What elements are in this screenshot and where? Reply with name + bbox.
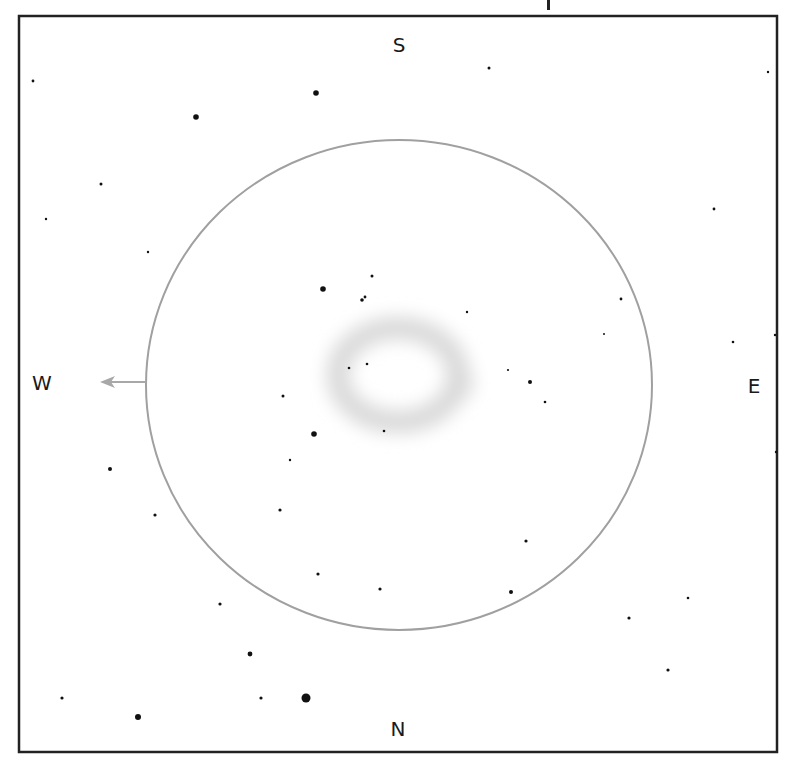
star [153, 513, 156, 516]
star [620, 298, 623, 301]
star [259, 696, 262, 699]
cardinal-north-label: N [391, 719, 406, 739]
star [282, 395, 285, 398]
field-of-view-circle [146, 140, 652, 630]
star [509, 590, 513, 594]
star [383, 430, 386, 433]
star [135, 714, 141, 720]
star [316, 572, 319, 575]
star [364, 296, 367, 299]
star [371, 275, 374, 278]
star [666, 668, 669, 671]
star [32, 80, 35, 83]
star [360, 298, 364, 302]
star [507, 369, 509, 371]
star [687, 597, 690, 600]
cardinal-east-label: E [748, 376, 761, 396]
star [193, 114, 199, 120]
star [627, 616, 630, 619]
star [544, 401, 547, 404]
eyepiece-sketch: S N W E [0, 0, 786, 761]
star [108, 467, 112, 471]
star [278, 508, 281, 511]
star [248, 652, 253, 657]
star [289, 459, 291, 461]
star [767, 71, 769, 73]
star [100, 183, 103, 186]
ring-nebula [338, 328, 474, 422]
star [713, 208, 716, 211]
star [60, 696, 63, 699]
sketch-frame [19, 16, 777, 752]
star [378, 587, 381, 590]
star [311, 431, 317, 437]
star [774, 334, 776, 336]
star [775, 451, 777, 453]
title-fragment [547, 0, 554, 10]
star [147, 251, 149, 253]
star-field [32, 67, 778, 721]
star [313, 90, 319, 96]
star [320, 286, 326, 292]
star [603, 333, 605, 335]
cardinal-west-label: W [32, 373, 52, 393]
cardinal-south-label: S [393, 35, 406, 55]
star [218, 602, 221, 605]
star [524, 539, 527, 542]
star [732, 341, 735, 344]
star [528, 380, 532, 384]
star [45, 218, 47, 220]
sketch-canvas [0, 0, 786, 761]
star [348, 367, 351, 370]
direction-arrow-icon [100, 376, 146, 388]
star [488, 67, 491, 70]
star [466, 311, 468, 313]
star [302, 694, 311, 703]
star [366, 363, 369, 366]
